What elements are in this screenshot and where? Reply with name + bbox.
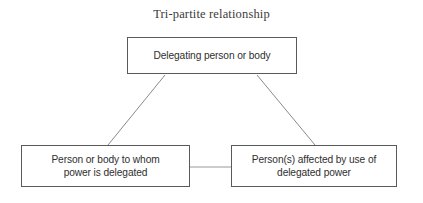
node-person-or-body-to-whom-power-is-delegated: Person or body to whom power is delegate… [21,145,190,187]
connector-delegator-to-affected [257,75,315,145]
node-delegating-person-or-body-label: Delegating person or body [150,49,275,63]
node-person-or-body-to-whom-power-is-delegated-label: Person or body to whom power is delegate… [47,153,163,180]
diagram-title: Tri-partite relationship [0,7,423,22]
node-affected-line-2: delegated power [277,167,351,178]
node-affected-line-1: Person(s) affected by use of [252,154,376,165]
node-delegating-person-or-body: Delegating person or body [127,37,297,74]
node-delegatee-line-1: Person or body to whom [51,154,159,165]
node-persons-affected-by-use-of-delegated-power-label: Person(s) affected by use of delegated p… [248,153,380,180]
connector-delegator-to-delegatee [108,75,165,145]
node-persons-affected-by-use-of-delegated-power: Person(s) affected by use of delegated p… [231,145,397,187]
diagram-canvas: Tri-partite relationship Delegating pers… [0,0,423,203]
node-delegatee-line-2: power is delegated [64,167,148,178]
